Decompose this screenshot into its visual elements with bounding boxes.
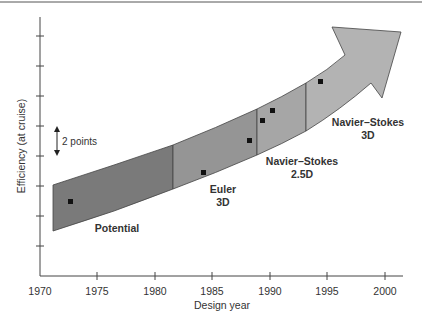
data-point (260, 118, 265, 123)
label-euler-line1: Euler (210, 183, 236, 195)
data-point (201, 170, 206, 175)
x-axis (40, 272, 403, 280)
label-ns25-line2: 2.5D (291, 168, 314, 180)
x-tick-1990: 1990 (258, 285, 282, 297)
x-tick-1980: 1980 (143, 285, 167, 297)
label-ns3-line1: Navier–Stokes (332, 116, 405, 128)
band-segment-potential (53, 145, 173, 231)
label-euler-line2: 3D (216, 196, 230, 208)
x-tick-2000: 2000 (373, 285, 397, 297)
x-axis-title: Design year (194, 299, 251, 311)
band-segment-euler-3d (173, 109, 257, 189)
arrow-up-icon (54, 126, 60, 132)
label-ns3-line2: 3D (361, 129, 375, 141)
label-ns25-line1: Navier–Stokes (266, 155, 339, 167)
label-potential: Potential (95, 222, 139, 234)
data-point (318, 79, 323, 84)
arrow-down-icon (54, 150, 60, 156)
data-point (247, 138, 252, 143)
x-tick-1975: 1975 (85, 285, 109, 297)
x-tick-1970: 1970 (28, 285, 52, 297)
data-point (270, 108, 275, 113)
y-axis-title: Efficiency (at cruise) (15, 99, 27, 193)
y-axis (36, 17, 44, 276)
efficiency-vs-design-year-chart: 1970 1975 1980 1985 1990 1995 2000 Desig… (0, 0, 432, 324)
data-point (68, 199, 73, 204)
x-tick-1985: 1985 (200, 285, 224, 297)
scale-bar: 2 points (54, 126, 97, 156)
x-tick-1995: 1995 (315, 285, 339, 297)
scale-bar-label: 2 points (62, 136, 97, 147)
